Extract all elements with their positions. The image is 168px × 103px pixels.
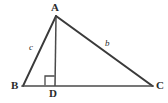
side-label-c: c [29, 43, 33, 52]
vertex-label-c: C [156, 80, 164, 91]
segment-ac-line [56, 16, 153, 86]
vertex-label-d: D [49, 88, 57, 99]
altitude-ad-line [55, 17, 56, 86]
right-angle-marker-icon [45, 76, 55, 85]
vertex-label-a: A [51, 2, 59, 13]
vertex-label-b: B [11, 80, 18, 91]
geometry-diagram: A B C D c b [0, 0, 168, 103]
triangle-figure [0, 0, 168, 103]
side-label-b: b [105, 39, 110, 48]
